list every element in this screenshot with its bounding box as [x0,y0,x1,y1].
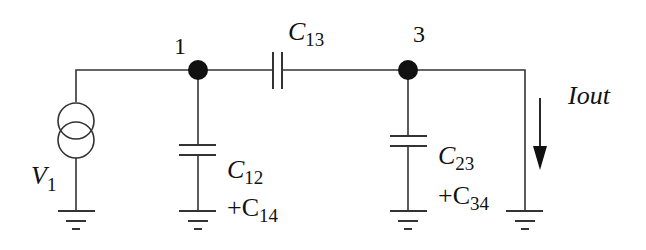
ground-icon-c23 [390,211,427,229]
capacitor-c23-icon [390,136,427,146]
ground-icon-c12 [179,211,216,229]
current-source-icon [58,103,94,158]
node-1-label: 1 [174,33,186,59]
circuit-diagram: 1 3 C13 V1 C12 +C14 C23 +C34 Iout [0,0,646,250]
c14-label: +C14 [227,193,279,226]
node-3-dot [398,60,418,80]
node-1-dot [188,60,208,80]
c12-label: C12 [227,155,263,188]
capacitor-c12-icon [179,145,216,155]
capacitor-c13-icon [273,52,282,89]
wire-source-to-node1 [76,70,273,102]
wire-c13-to-output [282,70,525,211]
ground-icon-output [506,211,543,229]
iout-label: Iout [567,81,611,110]
current-arrow-icon [533,98,547,170]
c34-label: +C34 [438,181,490,214]
v1-label: V1 [31,161,56,195]
c23-label: C23 [438,141,474,174]
c13-label: C13 [288,17,324,50]
ground-icon-source [58,211,95,229]
node-3-label: 3 [413,21,425,47]
